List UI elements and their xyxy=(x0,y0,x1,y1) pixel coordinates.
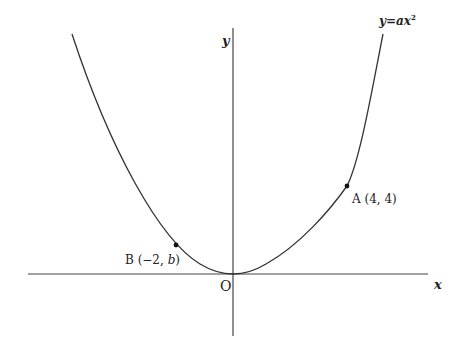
point-b-suffix: ) xyxy=(175,253,180,267)
origin-label: O xyxy=(220,279,231,293)
eq-equals: = xyxy=(386,14,396,28)
eq-exponent: 2 xyxy=(411,13,416,22)
point-b xyxy=(174,243,179,248)
eq-x: x xyxy=(404,14,411,28)
parabola-figure xyxy=(0,0,464,360)
x-axis-label: x xyxy=(434,278,442,291)
point-a-label: A (4, 4) xyxy=(352,193,397,205)
eq-a: a xyxy=(396,14,404,28)
point-a xyxy=(345,184,350,189)
point-b-label: B (−2, b) xyxy=(125,254,180,266)
point-b-prefix: B (−2, xyxy=(125,253,164,267)
y-axis-label: y xyxy=(222,34,230,47)
parabola-curve xyxy=(72,34,383,274)
curve-equation-label: y=ax2 xyxy=(379,14,416,27)
eq-y: y xyxy=(379,14,386,28)
